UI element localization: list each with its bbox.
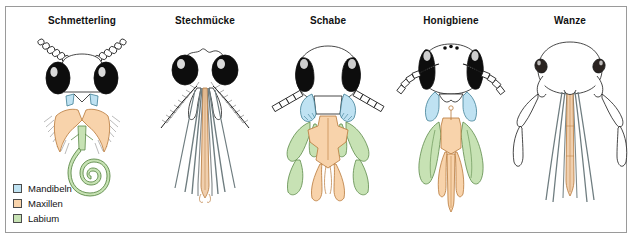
- schabe-illustration: [268, 30, 388, 220]
- antenna-left-icon: [513, 76, 546, 166]
- mandible-left: [425, 92, 439, 121]
- labial-palp-right: [334, 164, 345, 201]
- antenna-right-icon: [353, 90, 384, 111]
- compound-eye-left: [172, 55, 198, 85]
- antenna-right-icon: [594, 76, 627, 166]
- legend-label-mandibeln: Mandibeln: [28, 184, 72, 194]
- panel-title-wanze: Wanze: [510, 15, 630, 26]
- legend: Mandibeln Maxillen Labium: [13, 182, 105, 227]
- wanze-illustration: [510, 30, 630, 220]
- legend-label-maxillen: Maxillen: [28, 199, 63, 209]
- compound-eye-left: [46, 62, 70, 94]
- panel-stechmuecke: Stechmücke: [145, 6, 265, 221]
- prementum: [441, 118, 461, 154]
- mandible-right: [90, 94, 98, 106]
- maxillary-palp-right: [346, 122, 369, 161]
- legend-item-maxillen: Maxillen: [13, 197, 105, 210]
- proboscis-base: [78, 126, 86, 150]
- antenna-left-icon: [272, 90, 303, 111]
- rostrum-stylets: [546, 92, 594, 202]
- compound-eye-right: [94, 62, 118, 94]
- panel-title-schabe: Schabe: [268, 15, 388, 26]
- head-capsule: [538, 42, 602, 94]
- clypeus: [314, 96, 342, 114]
- panel-title-schmetterling: Schmetterling: [22, 15, 142, 26]
- legend-swatch-labium: [13, 214, 22, 223]
- compound-eye-right: [212, 55, 238, 85]
- panel-honigbiene: Honigbiene: [391, 6, 511, 221]
- legend-item-mandibeln: Mandibeln: [13, 182, 105, 195]
- mandible-right: [463, 92, 477, 121]
- legend-swatch-maxillen: [13, 199, 22, 208]
- panel-schabe: Schabe: [268, 6, 388, 221]
- galea-right: [461, 122, 483, 184]
- panel-title-honigbiene: Honigbiene: [391, 15, 511, 26]
- labial-palp-right: [455, 152, 464, 197]
- honigbiene-illustration: [391, 30, 511, 220]
- galea-left: [419, 122, 441, 184]
- mandible-right: [340, 94, 356, 121]
- maxillary-palp-left: [287, 122, 310, 161]
- mandible-left: [66, 94, 74, 106]
- labial-palp-left: [311, 164, 322, 201]
- panel-wanze: Wanze: [510, 6, 630, 221]
- labial-palp-left: [438, 152, 447, 197]
- insect-mouthparts-figure: Schmetterling: [0, 0, 634, 241]
- legend-item-labium: Labium: [13, 212, 105, 225]
- legend-label-labium: Labium: [28, 214, 59, 224]
- mandible-left: [300, 94, 316, 121]
- stechmuecke-illustration: [145, 30, 265, 220]
- panel-title-stechmuecke: Stechmücke: [145, 15, 265, 26]
- legend-swatch-mandibeln: [13, 184, 22, 193]
- labrum: [439, 94, 463, 102]
